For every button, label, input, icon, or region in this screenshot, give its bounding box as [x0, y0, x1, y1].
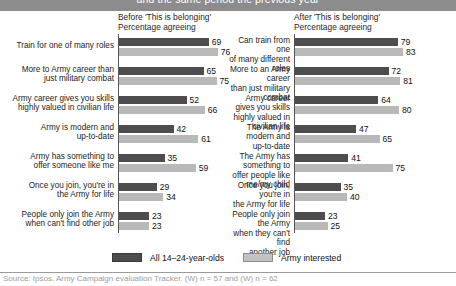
category-label: The Army is modern and up-to-date — [228, 123, 290, 151]
bar-value-label: 35 — [344, 183, 354, 192]
bar-light — [119, 222, 149, 230]
chart-panel-before: Before 'This is belonging' Percentage ag… — [0, 13, 228, 245]
bar-value-label: 65 — [207, 67, 217, 76]
chart-title-before: Before 'This is belonging' Percentage ag… — [118, 13, 211, 32]
bar-value-label: 79 — [401, 38, 411, 47]
bar-light — [295, 164, 393, 172]
category-label: Army is modern and up-to-date — [0, 123, 114, 142]
plot-area-before: Train for one of many roles6976More to A… — [0, 34, 228, 240]
bar-light — [295, 135, 380, 143]
bar-dark — [295, 38, 398, 46]
bar-light — [119, 77, 217, 85]
bar-value-label: 80 — [402, 106, 412, 115]
banner-title: and the same period the previous year — [0, 0, 456, 5]
bar-value-label: 41 — [351, 154, 361, 163]
bar-dark — [119, 96, 187, 104]
category-label: Train for one of many roles — [0, 41, 114, 50]
category-label: Once you join, you're in the Army for li… — [0, 181, 114, 200]
bar-dark — [295, 183, 341, 191]
bar-light — [119, 106, 205, 114]
legend-swatch-icon — [243, 253, 273, 262]
category-label: More to Army career than just military c… — [0, 65, 114, 84]
bar-light — [119, 135, 198, 143]
legend-label: All 14–24-year-olds — [150, 253, 224, 263]
footer-divider — [0, 272, 456, 273]
bar-value-label: 59 — [199, 164, 209, 173]
bar-value-label: 35 — [168, 154, 178, 163]
legend-swatch-icon — [112, 253, 142, 262]
bar-value-label: 66 — [208, 106, 218, 115]
bar-dark — [119, 183, 157, 191]
bar-light — [119, 164, 196, 172]
bar-value-label: 83 — [406, 48, 416, 57]
bar-value-label: 52 — [190, 96, 200, 105]
plot-area-after: Can train from one of many different rol… — [228, 34, 456, 240]
category-label: People only join the Army when can't fin… — [0, 210, 114, 229]
bar-value-label: 23 — [152, 212, 162, 221]
category-label: Army career gives you skills highly valu… — [0, 94, 114, 113]
source-text: Source: Ipsos, Army Campaign evaluation … — [3, 275, 278, 284]
bar-value-label: 47 — [359, 125, 369, 134]
bar-light — [119, 193, 163, 201]
bar-light — [119, 48, 218, 56]
chart-legend: All 14–24-year-olds Army interested — [0, 252, 456, 266]
chart-subtitle-line: Percentage agreeing — [118, 23, 211, 33]
chart-subtitle-line: Percentage agreeing — [294, 23, 380, 33]
legend-label: Army interested — [281, 253, 341, 263]
bar-value-label: 29 — [160, 183, 170, 192]
bar-dark — [119, 212, 149, 220]
chart-title-after: After 'This is belonging' Percentage agr… — [294, 13, 380, 32]
bar-dark — [295, 96, 378, 104]
bar-dark — [119, 67, 204, 75]
bar-value-label: 40 — [350, 193, 360, 202]
bar-dark — [295, 125, 356, 133]
bar-value-label: 65 — [383, 135, 393, 144]
bar-value-label: 64 — [381, 96, 391, 105]
bar-value-label: 69 — [212, 38, 222, 47]
bar-value-label: 75 — [396, 164, 406, 173]
bar-dark — [295, 154, 348, 162]
bar-value-label: 25 — [331, 222, 341, 231]
bar-value-label: 61 — [201, 135, 211, 144]
bar-light — [295, 106, 399, 114]
bar-dark — [295, 212, 325, 220]
bar-light — [295, 222, 328, 230]
category-label: Once you join, you're in the Army for li… — [228, 181, 290, 209]
bar-light — [295, 48, 403, 56]
bar-value-label: 42 — [177, 125, 187, 134]
bar-light — [295, 77, 400, 85]
bar-value-label: 23 — [328, 212, 338, 221]
category-label: People only join the Army when they can'… — [228, 210, 290, 257]
bar-value-label: 23 — [152, 222, 162, 231]
chart-panel-after: After 'This is belonging' Percentage agr… — [228, 13, 456, 245]
bar-value-label: 34 — [166, 193, 176, 202]
bar-dark — [119, 154, 165, 162]
bar-light — [295, 193, 347, 201]
value-axis-before — [118, 34, 119, 233]
category-label: Army has something to offer someone like… — [0, 152, 114, 171]
source-note: Source: Ipsos, Army Campaign evaluation … — [0, 275, 456, 286]
bar-dark — [119, 38, 209, 46]
value-axis-after — [294, 34, 295, 233]
title-banner: and the same period the previous year — [0, 0, 456, 11]
bar-dark — [295, 67, 389, 75]
bar-dark — [119, 125, 174, 133]
bar-value-label: 81 — [403, 77, 413, 86]
bar-value-label: 72 — [392, 67, 402, 76]
